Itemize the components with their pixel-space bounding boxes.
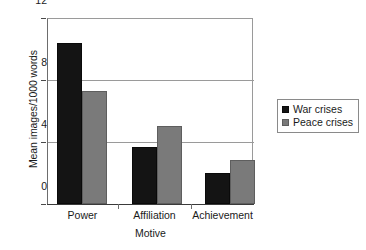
bar-affiliation-war-crises (132, 147, 157, 204)
bar-power-war-crises (57, 43, 82, 204)
y-tick-label-4: 4 (19, 119, 47, 129)
y-tick-mark-12 (41, 18, 46, 19)
y-tick-mark-4 (41, 142, 46, 143)
bar-chart: Mean images/1000 words 12 8 4 0 Power Af… (0, 0, 366, 250)
bar-affiliation-peace-crises (157, 126, 182, 204)
legend-item-peace-crises: Peace crises (282, 116, 353, 129)
legend-swatch-icon-war-crises (282, 106, 289, 113)
x-tick-label-achievement: Achievement (191, 209, 254, 221)
y-tick-mark-0 (41, 204, 46, 205)
y-tick-mark-8 (41, 80, 46, 81)
bars-layer (47, 18, 253, 204)
y-tick-label-0: 0 (19, 181, 47, 191)
y-axis-ticks: 12 8 4 0 (11, 0, 47, 186)
y-tick-label-8: 8 (19, 57, 47, 67)
x-tick-label-affiliation: Affiliation (118, 209, 191, 221)
x-axis-line (47, 204, 254, 205)
legend-item-war-crises: War crises (282, 103, 353, 116)
chart-legend: War crises Peace crises (277, 99, 359, 133)
y-tick-label-12: 12 (19, 0, 47, 5)
x-axis-title: Motive (47, 227, 254, 239)
bar-power-peace-crises (82, 91, 107, 204)
x-tick-label-power: Power (47, 209, 118, 221)
bar-achievement-war-crises (205, 173, 230, 204)
legend-swatch-icon-peace-crises (282, 119, 289, 126)
bar-achievement-peace-crises (230, 160, 255, 204)
legend-label-peace-crises: Peace crises (293, 117, 353, 128)
legend-label-war-crises: War crises (293, 104, 342, 115)
